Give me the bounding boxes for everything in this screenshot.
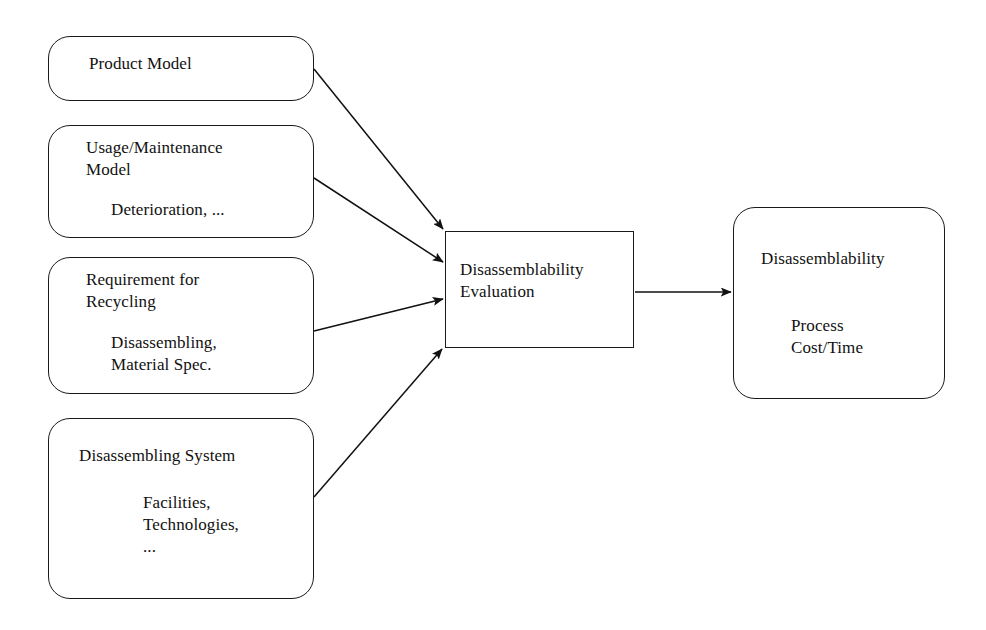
node-product-model[interactable]: Product Model — [48, 36, 314, 101]
node-requirement-recycling-detail: Disassembling, Material Spec. — [111, 332, 217, 376]
edge-requirement-to-evaluation — [314, 299, 443, 331]
node-disassemblability-output-label: Disassemblability — [761, 248, 885, 270]
node-disassembling-system-label: Disassembling System — [79, 445, 235, 467]
node-disassembling-system[interactable]: Disassembling System Facilities, Technol… — [48, 418, 314, 599]
edge-product-model-to-evaluation — [314, 69, 443, 229]
node-requirement-recycling[interactable]: Requirement for Recycling Disassembling,… — [48, 257, 314, 394]
node-usage-maintenance-detail: Deterioration, ... — [111, 199, 225, 221]
node-requirement-recycling-label: Requirement for Recycling — [86, 269, 199, 313]
edge-usage-maintenance-to-evaluation — [314, 178, 443, 262]
edge-disassembling-system-to-evaluation — [314, 349, 442, 497]
node-disassembling-system-detail: Facilities, Technologies, ... — [143, 492, 239, 557]
node-product-model-label: Product Model — [89, 53, 192, 75]
diagram-canvas: Product Model Usage/Maintenance Model De… — [0, 0, 986, 630]
node-disassemblability-evaluation-label: Disassemblability Evaluation — [460, 259, 584, 303]
node-disassemblability-evaluation[interactable]: Disassemblability Evaluation — [445, 231, 634, 348]
node-disassemblability-output-detail: Process Cost/Time — [791, 315, 863, 359]
node-usage-maintenance[interactable]: Usage/Maintenance Model Deterioration, .… — [48, 125, 314, 238]
node-disassemblability-output[interactable]: Disassemblability Process Cost/Time — [733, 207, 945, 399]
node-usage-maintenance-label: Usage/Maintenance Model — [86, 137, 223, 181]
